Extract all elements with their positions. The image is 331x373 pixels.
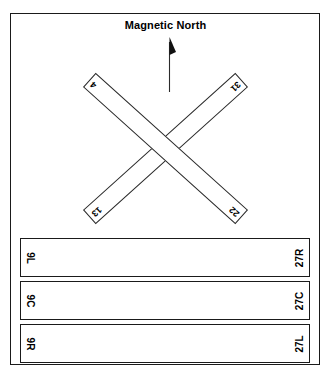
runway-9R-27L: 9R 27L (20, 324, 310, 363)
runway-end-label-27L: 27L (295, 335, 305, 352)
runway-end-label-31: 31 (228, 79, 241, 92)
runway-end-label-13: 13 (89, 204, 102, 217)
runway-9L-27R: 9L 27R (20, 238, 310, 277)
runway-end-label-27R: 27R (295, 248, 305, 266)
runway-end-label-9R: 9R (25, 337, 35, 350)
runway-diagram-page: Magnetic North 13 31 4 22 9L 27R 9C 27C … (0, 0, 331, 373)
runway-end-label-9L: 9L (25, 252, 35, 264)
runway-end-label-9C: 9C (25, 294, 35, 307)
runway-end-label-4: 4 (89, 79, 99, 89)
runway-9C-27C: 9C 27C (20, 281, 310, 320)
runway-end-label-22: 22 (228, 204, 241, 217)
runway-end-label-27C: 27C (295, 291, 305, 309)
